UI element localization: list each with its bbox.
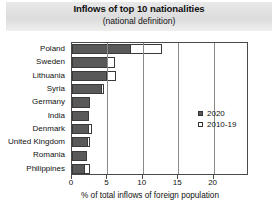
chart-title-band: Inflows of top 10 nationalities (nationa… (6, 2, 272, 31)
y-axis-category-labels: PolandSwedenLithuaniaSyriaGermanyIndiaDe… (0, 42, 68, 175)
bar-row (72, 163, 247, 176)
y-axis-label: Syria (47, 82, 65, 95)
bar-row (72, 43, 247, 56)
chart-figure: Inflows of top 10 nationalities (nationa… (0, 0, 278, 210)
bar-row (72, 56, 247, 69)
legend-item: 2010-19 (198, 119, 256, 130)
y-axis-label: Denmark (33, 122, 65, 135)
bar-2020 (72, 137, 88, 147)
bar-2020 (72, 151, 87, 161)
y-axis-label: Romania (33, 148, 65, 161)
x-axis-title: % of total inflows of foreign population (40, 191, 260, 200)
bar-2020 (72, 57, 108, 67)
bar-2020 (72, 124, 89, 134)
gridline (107, 43, 108, 174)
y-axis-label: Germany (32, 95, 65, 108)
gridline (143, 43, 144, 174)
gridline (178, 43, 179, 174)
x-tick-label: 5 (94, 178, 118, 188)
bar-row (72, 149, 247, 162)
bar-row (72, 70, 247, 83)
x-tick-label: 0 (59, 178, 83, 188)
chart-title: Inflows of top 10 nationalities (6, 3, 272, 15)
x-tick-label: 15 (165, 178, 189, 188)
bar-row (72, 83, 247, 96)
bar-2020 (72, 84, 102, 94)
chart-subtitle: (national definition) (6, 16, 272, 27)
y-axis-label: India (48, 109, 65, 122)
y-axis-label: Philippines (26, 162, 65, 175)
legend-label: 2020 (207, 108, 225, 119)
legend-swatch-icon (198, 111, 203, 116)
y-axis-label: Sweden (36, 55, 65, 68)
y-axis-label: United Kingdom (8, 135, 65, 148)
bar-2020 (72, 111, 89, 121)
legend-label: 2010-19 (207, 119, 236, 130)
bar-row (72, 136, 247, 149)
bar-2020 (72, 71, 107, 81)
x-tick-label: 10 (130, 178, 154, 188)
y-axis-label: Poland (40, 42, 65, 55)
legend-item: 2020 (198, 108, 256, 119)
chart-legend: 20202010-19 (198, 108, 256, 130)
x-tick-label: 20 (201, 178, 225, 188)
bar-2020 (72, 97, 90, 107)
bar-2020 (72, 44, 131, 54)
bar-2020 (72, 164, 85, 174)
legend-swatch-icon (198, 122, 203, 127)
y-axis-label: Lithuania (33, 69, 65, 82)
